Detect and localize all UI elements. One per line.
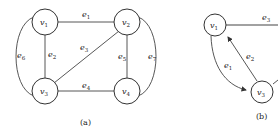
edge-label-e1-b: e1 [224, 61, 232, 71]
edge-label-e1: e1 [82, 10, 90, 20]
caption-a: (a) [80, 118, 91, 127]
edge-e3 [54, 31, 119, 83]
edge-label-e7: e7 [148, 52, 157, 62]
graph-figure: v1 v2 v3 v4 e1 e2 e3 e4 e5 e6 e7 (a) v1 … [0, 0, 278, 134]
edge-partial-right [273, 80, 278, 84]
edge-label-e4: e4 [82, 81, 91, 91]
caption-b: (b) [256, 112, 267, 121]
figure-b: v1 v3 e1 e2 e3 (b) [204, 13, 278, 121]
edge-label-e2-b: e2 [246, 52, 254, 62]
edge-label-e3: e3 [80, 43, 89, 53]
edge-label-e5: e5 [118, 52, 127, 62]
edge-label-e2: e2 [48, 50, 56, 60]
edge-label-e3-b: e3 [262, 13, 271, 23]
figure-a: v1 v2 v3 v4 e1 e2 e3 e4 e5 e6 e7 (a) [16, 9, 157, 127]
edge-label-e6: e6 [17, 51, 26, 61]
